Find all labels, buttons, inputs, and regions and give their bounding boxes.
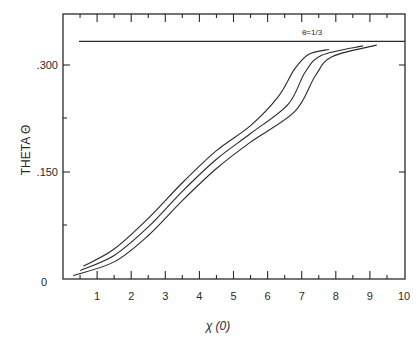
chart-canvas: .300 .150 0 12345678910 THETA Θ χ (0) θ=… xyxy=(0,0,417,346)
x-axis-ticks xyxy=(80,271,387,279)
data-curves xyxy=(73,45,376,275)
y-axis-ticks xyxy=(63,65,405,225)
x-tick-label: 10 xyxy=(398,290,410,302)
y-tick-label-0: 0 xyxy=(41,276,47,288)
x-tick-label: 9 xyxy=(367,290,373,302)
x-tick-label: 6 xyxy=(265,290,271,302)
curve-2-line xyxy=(80,46,363,271)
x-tick-label: 2 xyxy=(128,290,134,302)
x-axis-top-ticks xyxy=(80,14,387,22)
x-tick-label: 4 xyxy=(196,290,202,302)
theta-one-third-annotation: θ=1/3 xyxy=(302,28,323,37)
x-tick-label: 7 xyxy=(299,290,305,302)
x-tick-label: 3 xyxy=(162,290,168,302)
x-tick-label: 5 xyxy=(230,290,236,302)
y-tick-label-150: .150 xyxy=(37,166,58,178)
x-tick-label: 1 xyxy=(94,290,100,302)
plot-frame xyxy=(63,14,405,279)
x-tick-labels: 12345678910 xyxy=(94,290,410,302)
y-tick-label-300: .300 xyxy=(37,59,58,71)
x-axis-title: χ (0) xyxy=(205,319,231,333)
y-axis-title: THETA Θ xyxy=(19,125,33,175)
curve-1-line xyxy=(83,49,329,266)
x-tick-label: 8 xyxy=(333,290,339,302)
curve-3-line xyxy=(73,45,376,275)
